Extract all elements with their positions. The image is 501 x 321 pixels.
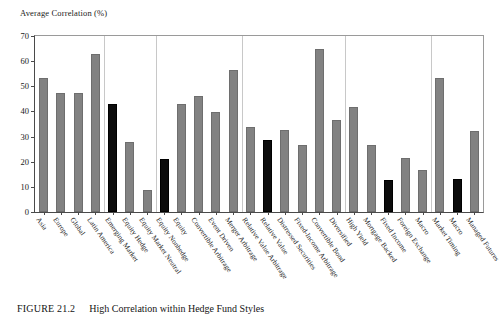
y-axis-tick <box>31 36 35 37</box>
x-axis-tick <box>250 212 251 215</box>
x-axis-tick <box>354 212 355 215</box>
chart-bar <box>56 93 65 212</box>
y-axis-tick-label: 0 <box>25 207 29 217</box>
chart-bar <box>298 145 307 212</box>
y-axis-title: Average Correlation (%) <box>20 8 107 18</box>
chart-bar <box>315 49 324 212</box>
x-axis-tick <box>130 212 131 215</box>
chart-bar <box>39 78 48 213</box>
y-axis-tick-label: 40 <box>21 106 30 116</box>
chart-plot-inner: 010203040506070 <box>35 36 483 212</box>
x-axis-tick <box>285 212 286 215</box>
x-axis-tick <box>388 212 389 215</box>
x-axis-label: Macro <box>413 216 431 236</box>
chart-bar <box>229 70 238 212</box>
chart-bar <box>453 179 462 212</box>
y-axis-tick-label: 50 <box>21 81 30 91</box>
x-axis-tick <box>199 212 200 215</box>
x-axis-label: Global <box>69 216 87 237</box>
chart-bar <box>367 145 376 212</box>
y-axis-tick <box>31 162 35 163</box>
y-axis-tick <box>31 111 35 112</box>
x-axis-tick <box>44 212 45 215</box>
chart-bar <box>435 78 444 213</box>
y-axis-tick-label: 60 <box>21 56 30 66</box>
x-axis-label: Asia <box>34 216 48 232</box>
y-axis-tick <box>31 61 35 62</box>
x-axis-tick <box>319 212 320 215</box>
x-axis-label: Macro <box>448 216 466 236</box>
x-axis-tick <box>440 212 441 215</box>
y-axis-tick-label: 70 <box>21 31 30 41</box>
x-axis-tick <box>95 212 96 215</box>
chart-bar <box>384 180 393 212</box>
x-axis-tick <box>181 212 182 215</box>
chart-bar <box>349 107 358 212</box>
group-separator-line <box>345 36 346 212</box>
y-axis-tick-label: 20 <box>21 157 30 167</box>
figure-caption: FIGURE 21.2High Correlation within Hedge… <box>17 303 477 314</box>
group-separator-line <box>104 36 105 212</box>
group-separator-line <box>156 36 157 212</box>
chart-bar <box>108 104 117 212</box>
x-axis-tick <box>268 212 269 215</box>
x-axis-tick <box>147 212 148 215</box>
chart-bar <box>246 127 255 212</box>
chart-bar <box>177 104 186 212</box>
x-axis-tick <box>61 212 62 215</box>
chart-bar <box>91 54 100 212</box>
chart-bar <box>401 158 410 212</box>
chart-bar <box>143 190 152 212</box>
y-axis-tick <box>31 137 35 138</box>
chart-bar <box>160 159 169 212</box>
x-axis-tick <box>113 212 114 215</box>
x-axis-tick <box>405 212 406 215</box>
x-axis-tick <box>423 212 424 215</box>
x-axis-label: Equity <box>172 216 190 237</box>
chart-bar <box>263 140 272 212</box>
x-axis-labels: AsiaEuropeGlobalLatin AmericaEmerging Ma… <box>34 216 494 296</box>
x-axis-tick <box>474 212 475 215</box>
x-axis-tick <box>337 212 338 215</box>
group-separator-line <box>242 36 243 212</box>
x-axis-tick <box>164 212 165 215</box>
y-axis-tick <box>31 86 35 87</box>
x-axis-tick <box>78 212 79 215</box>
chart-bar <box>211 112 220 212</box>
y-axis-tick <box>31 212 35 213</box>
x-axis-tick <box>457 212 458 215</box>
y-axis-tick <box>31 187 35 188</box>
x-axis-label: Europe <box>51 216 70 238</box>
x-axis-tick <box>371 212 372 215</box>
group-separator-line <box>431 36 432 212</box>
chart-bar <box>194 96 203 212</box>
x-axis-label: Managed Futures <box>465 216 501 263</box>
x-axis-tick <box>233 212 234 215</box>
chart-bar <box>332 120 341 212</box>
chart-bar <box>74 93 83 212</box>
chart-plot-area: 010203040506070 <box>34 35 484 213</box>
y-axis-tick-label: 30 <box>21 132 30 142</box>
x-axis-tick <box>302 212 303 215</box>
chart-bar <box>280 130 289 212</box>
chart-bar <box>125 142 134 212</box>
figure-caption-text: High Correlation within Hedge Fund Style… <box>89 303 264 314</box>
x-axis-tick <box>216 212 217 215</box>
chart-bar <box>418 170 427 212</box>
figure-caption-label: FIGURE 21.2 <box>17 303 75 314</box>
y-axis-tick-label: 10 <box>21 182 30 192</box>
chart-bar <box>470 131 479 212</box>
